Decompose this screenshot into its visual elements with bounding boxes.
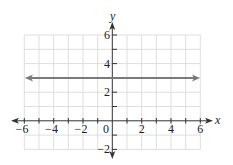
- x-tick-label-4: 4: [168, 122, 174, 136]
- x-axis: x: [11, 113, 221, 127]
- x-tick-label-6: 6: [197, 122, 203, 136]
- y-tick-label-4: 4: [104, 57, 110, 71]
- x-tick-label-0: 0: [103, 122, 109, 136]
- x-axis-label: x: [214, 113, 221, 127]
- y-tick-label-6: 6: [104, 28, 110, 42]
- y-axis-ticks: [112, 35, 117, 149]
- x-tick-label-neg6: −6: [16, 122, 29, 136]
- x-tick-label-neg4: −4: [45, 122, 58, 136]
- y-axis: y: [109, 9, 117, 159]
- x-tick-labels: −6 −4 −2 0 2 4 6: [16, 122, 204, 136]
- y-axis-label: y: [109, 9, 116, 23]
- y-tick-label-neg2: −2: [97, 142, 110, 156]
- coordinate-plane: x y 6 4 2 −2 −6 −4 −2 0 2 4 6: [0, 0, 233, 165]
- y-tick-label-2: 2: [104, 85, 110, 99]
- x-tick-label-2: 2: [139, 122, 145, 136]
- x-tick-label-neg2: −2: [75, 122, 88, 136]
